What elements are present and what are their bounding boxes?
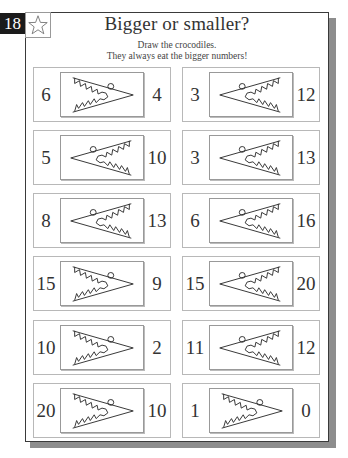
right-number: 0 — [293, 384, 319, 437]
exercise-card: 3 13 — [182, 130, 320, 185]
exercise-card: 3 12 — [182, 67, 320, 122]
crocodile-mouth-icon[interactable] — [209, 198, 293, 243]
left-number: 10 — [34, 321, 58, 374]
crocodile-mouth-icon[interactable] — [60, 72, 144, 117]
crocodile-mouth-icon[interactable] — [60, 198, 144, 243]
crocodile-mouth-icon[interactable] — [209, 388, 293, 433]
right-number: 4 — [144, 68, 170, 121]
left-number: 5 — [34, 131, 58, 184]
exercise-card: 15 9 — [33, 256, 171, 311]
exercise-card: 20 10 — [33, 383, 171, 438]
left-number: 8 — [34, 194, 58, 247]
crocodile-mouth-icon[interactable] — [209, 72, 293, 117]
crocodile-mouth-icon[interactable] — [209, 325, 293, 370]
crocodile-mouth-icon[interactable] — [60, 261, 144, 306]
left-number: 20 — [34, 384, 58, 437]
exercise-card: 11 12 — [182, 320, 320, 375]
right-number: 9 — [144, 257, 170, 310]
crocodile-mouth-icon[interactable] — [60, 135, 144, 180]
left-number: 6 — [183, 194, 207, 247]
right-number: 16 — [293, 194, 319, 247]
right-number: 20 — [293, 257, 319, 310]
crocodile-mouth-icon[interactable] — [209, 261, 293, 306]
left-number: 3 — [183, 68, 207, 121]
exercise-card: 1 0 — [182, 383, 320, 438]
instruction-line-2: They always eat the bigger numbers! — [25, 51, 329, 61]
crocodile-mouth-icon[interactable] — [60, 325, 144, 370]
exercise-card: 8 13 — [33, 193, 171, 248]
page-title: Bigger or smaller? — [25, 13, 329, 35]
left-number: 6 — [34, 68, 58, 121]
right-number: 13 — [144, 194, 170, 247]
right-number: 10 — [144, 384, 170, 437]
crocodile-mouth-icon[interactable] — [209, 135, 293, 180]
exercise-card: 15 20 — [182, 256, 320, 311]
page-number-badge: 18 — [0, 13, 25, 34]
instruction-line-1: Draw the crocodiles. — [25, 40, 329, 50]
left-number: 11 — [183, 321, 207, 374]
right-number: 12 — [293, 321, 319, 374]
exercise-card: 5 10 — [33, 130, 171, 185]
exercise-card: 6 16 — [182, 193, 320, 248]
right-number: 12 — [293, 68, 319, 121]
exercise-card: 10 2 — [33, 320, 171, 375]
left-number: 3 — [183, 131, 207, 184]
left-number: 15 — [34, 257, 58, 310]
right-number: 13 — [293, 131, 319, 184]
left-number: 15 — [183, 257, 207, 310]
left-number: 1 — [183, 384, 207, 437]
crocodile-mouth-icon[interactable] — [60, 388, 144, 433]
right-number: 2 — [144, 321, 170, 374]
exercise-card: 6 4 — [33, 67, 171, 122]
right-number: 10 — [144, 131, 170, 184]
